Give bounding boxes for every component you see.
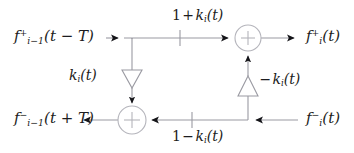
- amplifier-up-icon: [238, 76, 258, 96]
- label-input-backward-sub: i−1: [27, 117, 44, 128]
- label-gain-backward-operator: −: [258, 71, 273, 87]
- summer-top: [235, 25, 261, 51]
- label-gain-forward-branch: ki(t): [69, 68, 97, 82]
- label-gain-top: 1+ki(t): [172, 8, 223, 22]
- label-input-forward-sub: i−1: [27, 35, 44, 46]
- forward-cross-branch-group: [122, 38, 142, 103]
- label-gain-top-prefix: 1: [172, 7, 181, 23]
- figure-canvas: f+i−1(t − T) f−i−1(t + T) f+i(t) f−i(t) …: [0, 0, 354, 153]
- label-gain-backward-arg: (t): [284, 71, 301, 87]
- label-output-forward: f+i(t): [306, 29, 340, 44]
- label-input-backward: f−i−1(t + T): [14, 111, 94, 126]
- label-gain-bottom: 1−ki(t): [172, 129, 223, 143]
- label-input-forward: f+i−1(t − T): [14, 29, 94, 44]
- label-output-forward-arg: (t): [322, 27, 340, 45]
- label-gain-top-operator: +: [181, 7, 196, 23]
- label-gain-bottom-base: k: [195, 128, 203, 144]
- amplifier-down-icon: [122, 70, 142, 88]
- label-output-backward: f−i(t): [306, 111, 340, 126]
- summer-bottom: [118, 106, 146, 134]
- label-gain-bottom-prefix: 1: [172, 128, 181, 144]
- label-gain-bottom-operator: −: [181, 128, 196, 144]
- forward-path-group: [106, 30, 294, 46]
- label-gain-backward-branch: −ki(t): [258, 72, 300, 86]
- label-gain-forward-arg: (t): [80, 67, 97, 83]
- backward-path-group: [84, 112, 298, 128]
- label-gain-top-base: k: [195, 7, 203, 23]
- backward-cross-branch-group: [238, 56, 258, 120]
- label-gain-top-arg: (t): [207, 7, 224, 23]
- label-gain-backward-base: k: [273, 71, 281, 87]
- label-output-backward-arg: (t): [322, 109, 340, 127]
- label-gain-bottom-arg: (t): [207, 128, 224, 144]
- label-input-forward-arg: (t − T): [44, 27, 94, 45]
- label-input-backward-arg: (t + T): [44, 109, 94, 127]
